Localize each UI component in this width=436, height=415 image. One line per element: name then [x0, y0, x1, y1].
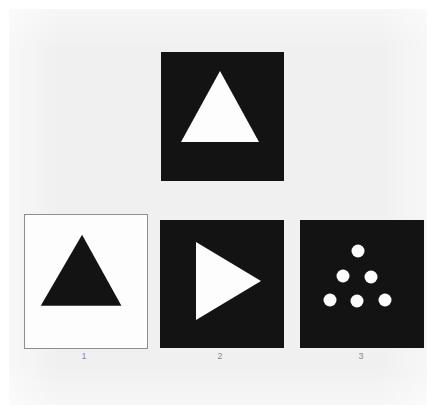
- figure-root: 1 2 3: [0, 0, 436, 415]
- option-label-2: 2: [200, 350, 240, 362]
- option-panel-3[interactable]: [300, 220, 424, 348]
- option-label-1: 1: [64, 350, 104, 362]
- option-label-3: 3: [341, 350, 381, 362]
- sample-stimulus-panel: [161, 52, 284, 181]
- triangle-up-icon: [161, 52, 284, 181]
- triangle-up-icon: [25, 215, 147, 348]
- triangle-right-icon: [160, 220, 284, 348]
- option-panel-1[interactable]: [24, 214, 148, 349]
- option-panel-2[interactable]: [160, 220, 284, 348]
- dots-triangular-arrangement-icon: [300, 220, 424, 348]
